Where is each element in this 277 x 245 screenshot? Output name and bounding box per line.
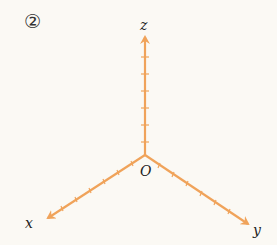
origin-label: O	[140, 163, 151, 179]
x-axis-label: x	[25, 215, 33, 231]
y-axis	[145, 155, 248, 224]
y-axis-label: y	[253, 222, 261, 238]
z-axis-label: z	[140, 17, 147, 33]
axes-diagram	[0, 0, 277, 245]
